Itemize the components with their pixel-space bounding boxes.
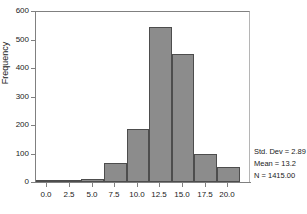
x-axis-line bbox=[35, 182, 251, 183]
stat-std-dev: Std. Dev = 2.89 bbox=[254, 146, 307, 158]
x-axis-tick bbox=[182, 183, 183, 187]
stat-mean: Mean = 13.2 bbox=[254, 158, 307, 170]
y-axis-tick-label: 100 bbox=[0, 150, 29, 158]
histogram-bar bbox=[149, 27, 172, 182]
x-axis-tick bbox=[92, 183, 93, 187]
y-axis-tick-label: 300 bbox=[0, 93, 29, 101]
statistics-legend: Std. Dev = 2.89 Mean = 13.2 N = 1415.00 bbox=[254, 146, 307, 182]
x-axis-tick bbox=[205, 183, 206, 187]
y-axis-tick-label: 0 bbox=[0, 178, 29, 186]
histogram-bar bbox=[194, 154, 217, 182]
y-axis-tick-label: 500 bbox=[0, 36, 29, 44]
x-axis-tick bbox=[227, 183, 228, 187]
x-axis-tick-label: 20.0 bbox=[212, 190, 242, 199]
x-axis-tick bbox=[114, 183, 115, 187]
y-axis-tick-label: 600 bbox=[0, 7, 29, 15]
x-axis-tick bbox=[159, 183, 160, 187]
histogram-bar bbox=[127, 129, 150, 182]
histogram-bars bbox=[36, 12, 249, 182]
x-axis-tick bbox=[46, 183, 47, 187]
y-axis-tick-label: 200 bbox=[0, 121, 29, 129]
y-axis-tick-label: 400 bbox=[0, 64, 29, 72]
histogram-bar bbox=[172, 54, 195, 182]
histogram-bar bbox=[104, 163, 127, 182]
stat-n: N = 1415.00 bbox=[254, 170, 307, 182]
plot-area bbox=[35, 11, 250, 182]
histogram-bar bbox=[217, 167, 240, 182]
histogram-figure: Frequency 0100200300400500600 0.02.55.07… bbox=[0, 0, 307, 214]
x-axis-tick bbox=[137, 183, 138, 187]
x-axis-tick bbox=[69, 183, 70, 187]
